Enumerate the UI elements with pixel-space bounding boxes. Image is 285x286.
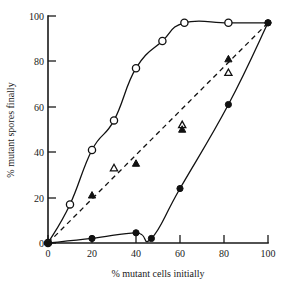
y-axis-ticks — [48, 16, 56, 243]
y-tick-label: 40 — [34, 147, 44, 158]
data-series-layer — [44, 19, 271, 246]
filled-circle-marker — [148, 235, 154, 241]
y-axis-title: % mutant spores finally — [5, 82, 16, 177]
y-tick-label: 20 — [34, 193, 44, 204]
y-tick-label: 60 — [34, 102, 44, 113]
open-triangle-marker — [110, 164, 117, 171]
series-triangles-diagonal — [48, 23, 268, 243]
y-tick-label: 80 — [34, 56, 44, 67]
chart-plot-area: 100 80 60 40 20 0 0 20 40 60 80 100 % mu… — [0, 0, 285, 286]
y-tick-label: 100 — [29, 11, 44, 22]
open-circle-marker — [159, 37, 166, 44]
filled-triangle-marker — [225, 55, 232, 62]
open-circle-marker — [225, 19, 232, 26]
x-tick-label: 100 — [261, 248, 276, 259]
filled-circle-marker — [177, 185, 183, 191]
open-circle-marker — [88, 146, 95, 153]
x-axis-ticks — [48, 235, 268, 243]
axis-lines — [48, 16, 268, 243]
diagonal-dashed-line — [48, 23, 268, 243]
open-circle-marker — [132, 65, 139, 72]
chart-figure: 100 80 60 40 20 0 0 20 40 60 80 100 % mu… — [0, 0, 285, 286]
filled-triangle-marker — [88, 192, 95, 199]
open-circle-marker — [181, 19, 188, 26]
open-circle-marker — [110, 117, 117, 124]
x-tick-label: 0 — [46, 248, 51, 259]
y-tick-labels: 100 80 60 40 20 0 — [29, 11, 44, 249]
x-axis-title: % mutant cells initially — [111, 268, 204, 279]
x-tick-label: 80 — [219, 248, 229, 259]
filled-circle-marker — [133, 230, 139, 236]
x-tick-labels: 0 20 40 60 80 100 — [46, 248, 276, 259]
x-tick-label: 40 — [131, 248, 141, 259]
filled-triangle-marker — [132, 160, 139, 167]
open-triangle-marker — [225, 69, 232, 76]
y-tick-label: 0 — [39, 238, 44, 249]
filled-circle-marker — [225, 101, 231, 107]
filled-circle-marker — [89, 235, 95, 241]
open-circle-marker — [66, 201, 73, 208]
x-tick-label: 20 — [87, 248, 97, 259]
x-tick-label: 60 — [175, 248, 185, 259]
